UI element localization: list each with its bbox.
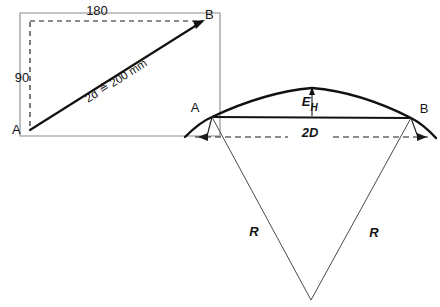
rise-label: E [302, 94, 311, 109]
hypotenuse-arrowhead-icon [193, 20, 205, 29]
hypotenuse-annotation-label: 2d ≙ 200 mm [83, 57, 149, 105]
horizontal-dimension-label: 180 [86, 3, 108, 18]
rise-label-subscript: H [310, 102, 318, 113]
hypotenuse-annotation-group: 2d ≙ 200 mm [83, 57, 149, 105]
rise-label-group: E H [302, 94, 319, 113]
point-a-label-right: A [191, 100, 200, 115]
vertical-dimension-label: 90 [15, 70, 29, 85]
point-b-label-left: B [205, 7, 214, 22]
technical-diagram-canvas: 180 90 A B 2d ≙ 200 mm [0, 0, 440, 307]
radius-label-left: R [249, 224, 259, 239]
chord-line [212, 117, 411, 118]
radius-label-right: R [369, 225, 379, 240]
chord-dimension-label: 2D [301, 125, 319, 140]
arc-geometry-panel: A B 2D E H R R [185, 87, 436, 300]
figure-root: 180 90 A B 2d ≙ 200 mm [0, 0, 440, 307]
radius-line-left [212, 117, 311, 300]
point-a-label-left: A [12, 122, 21, 137]
radius-line-right [311, 118, 411, 300]
point-b-label-right: B [420, 101, 429, 116]
gradient-triangle-panel: 180 90 A B 2d ≙ 200 mm [12, 3, 220, 137]
